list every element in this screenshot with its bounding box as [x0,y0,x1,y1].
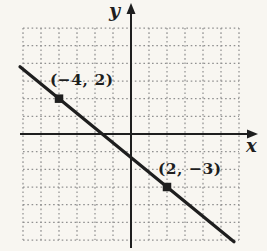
plotted-line [20,67,234,242]
point-label-neg4-2: (−4, 2) [50,72,114,88]
coordinate-plane-figure: y x (−4, 2) (2, −3) [0,0,267,251]
point-marker-2-neg3 [163,183,172,192]
x-axis-label: x [246,137,257,155]
y-axis-arrowhead [127,3,136,14]
y-axis-label: y [109,1,120,20]
point-marker-neg4-2 [55,94,64,103]
grid-axes-line-canvas [0,0,267,251]
point-label-2-neg3: (2, −3) [158,161,222,177]
